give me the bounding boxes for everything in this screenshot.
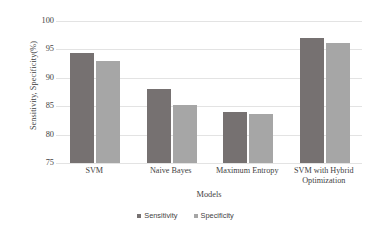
bar xyxy=(223,112,247,163)
legend-swatch-icon xyxy=(194,214,198,218)
x-category-label: SVM with Hybrid Optimization xyxy=(285,166,363,185)
bar xyxy=(96,61,120,163)
bar xyxy=(326,43,350,163)
y-tick-label: 80 xyxy=(46,130,54,138)
x-category-label: Naive Bayes xyxy=(132,166,210,176)
bar xyxy=(70,53,94,163)
y-tick-label: 100 xyxy=(41,17,54,25)
bar-group xyxy=(56,21,133,163)
bars-layer xyxy=(56,21,362,163)
x-category-label: SVM xyxy=(55,166,133,176)
bar-chart: Sensitivity, Specificity(%) 758085909510… xyxy=(0,0,371,243)
chart-legend: SensitivitySpecificity xyxy=(0,211,371,220)
y-axis-tick-labels: 7580859095100 xyxy=(24,21,54,163)
x-category-label: Maximum Entropy xyxy=(208,166,286,176)
legend-label: Sensitivity xyxy=(144,211,177,220)
bar xyxy=(249,114,273,163)
legend-swatch-icon xyxy=(137,214,141,218)
legend-item[interactable]: Specificity xyxy=(194,211,234,220)
y-tick-label: 85 xyxy=(46,102,54,110)
bar-group xyxy=(286,21,363,163)
gridline xyxy=(56,163,362,164)
x-axis-title: Models xyxy=(56,190,362,199)
y-tick-label: 95 xyxy=(46,45,54,53)
legend-item[interactable]: Sensitivity xyxy=(137,211,177,220)
bar xyxy=(300,38,324,163)
bar xyxy=(147,89,171,163)
bar-group xyxy=(209,21,286,163)
y-tick-label: 75 xyxy=(46,159,54,167)
legend-label: Specificity xyxy=(201,211,234,220)
bar-group xyxy=(133,21,210,163)
y-tick-label: 90 xyxy=(46,74,54,82)
bar xyxy=(173,105,197,163)
x-axis-category-labels: SVMNaive BayesMaximum EntropySVM with Hy… xyxy=(56,166,362,192)
